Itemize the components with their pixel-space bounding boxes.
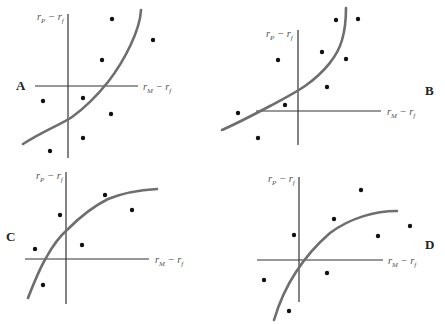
panel-a-letter: A xyxy=(16,78,26,93)
panel-b-x-label: rM − rf xyxy=(387,106,416,120)
market-timing-diagram: rP − rf rM − rf A rP − rf rM − rf B xyxy=(0,0,445,324)
panel-c: rP − rf rM − rf C xyxy=(6,170,184,304)
panel-b-fit-curve xyxy=(222,8,346,130)
panel-d: rP − rf rM − rf D xyxy=(257,173,434,320)
panel-a-points xyxy=(41,17,155,153)
panel-b-letter: B xyxy=(425,83,434,98)
panel-d-fit-curve xyxy=(274,211,397,320)
panel-c-y-label: rP − rf xyxy=(36,170,64,184)
panel-a: rP − rf rM − rf A xyxy=(16,10,172,158)
panel-a-fit-curve xyxy=(23,10,141,144)
panel-c-points xyxy=(33,193,134,287)
panel-d-x-label: rM − rf xyxy=(388,255,417,269)
panel-d-letter: D xyxy=(425,237,434,252)
panel-d-y-label: rP − rf xyxy=(268,173,296,187)
panel-b: rP − rf rM − rf B xyxy=(222,8,434,145)
panel-c-letter: C xyxy=(6,229,15,244)
panel-a-y-label: rP − rf xyxy=(37,11,65,25)
panel-b-y-label: rP − rf xyxy=(266,28,294,42)
panel-c-fit-curve xyxy=(28,189,157,298)
panel-a-x-label: rM − rf xyxy=(143,81,172,95)
panel-c-x-label: rM − rf xyxy=(155,254,184,268)
